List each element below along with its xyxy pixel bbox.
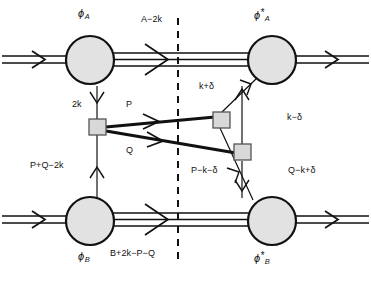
label-phi-B: ϕB <box>78 251 90 265</box>
label-A-minus-2k: A−2k <box>141 14 162 24</box>
top-internal-propagator <box>108 53 256 66</box>
top-right-external-propagator <box>296 56 369 63</box>
blob-phi-B <box>66 197 114 245</box>
arrowhead-bottom-left-external <box>32 211 45 228</box>
label-P: P <box>126 99 132 109</box>
vertex-left <box>89 119 106 135</box>
label-Q: Q <box>126 145 133 155</box>
label-phi-star-A: ϕ*A <box>254 8 270 24</box>
vertex-upper-right <box>213 112 230 128</box>
diagram-graphics <box>0 0 371 282</box>
label-2k: 2k <box>72 99 82 109</box>
label-phi-star-B: ϕ*B <box>254 251 270 267</box>
arrowhead-top-left-external <box>32 51 45 68</box>
label-P-minus-k-minus-delta: P−k−δ <box>191 165 218 175</box>
blob-phi-A <box>66 36 114 84</box>
label-Q-minus-k-plus-delta: Q−k+δ <box>288 165 316 175</box>
bottom-internal-propagator <box>108 213 256 226</box>
line-k-plus-delta <box>222 78 257 112</box>
feynman-cut-diagram: ϕA ϕ*A ϕB ϕ*B A−2k 2k P Q k+δ k−δ P+Q−2k… <box>0 0 371 282</box>
bottom-right-external-propagator <box>296 216 369 223</box>
arrowhead-bottom-right-external <box>325 211 338 228</box>
blob-phi-star-A <box>248 36 296 84</box>
bold-line-P <box>106 117 215 127</box>
label-k-minus-delta: k−δ <box>287 112 302 122</box>
label-k-plus-delta: k+δ <box>199 81 214 91</box>
line-P-minus-k-minus-delta <box>220 128 253 200</box>
label-B-plus-2k-minus-P-minus-Q: B+2k−P−Q <box>110 248 155 258</box>
blob-phi-star-B <box>248 197 296 245</box>
bottom-left-external-propagator <box>2 216 70 223</box>
top-left-external-propagator <box>2 56 70 63</box>
vertex-lower-right <box>234 144 251 160</box>
label-P-plus-Q-minus-2k: P+Q−2k <box>30 160 64 170</box>
label-phi-A: ϕA <box>78 8 90 22</box>
arrowhead-top-right-external <box>325 51 338 68</box>
arrowhead-P-minus-k-minus-delta <box>227 168 239 183</box>
